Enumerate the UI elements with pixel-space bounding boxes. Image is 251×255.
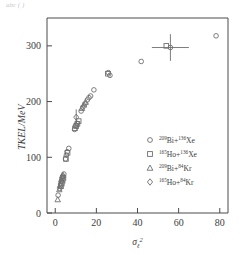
data-point [55,197,60,202]
legend-marker-diamond [147,179,152,185]
legend: 209Bi+136Xe165Ho+136Xe209Bi+84Kr165Ho+84… [147,135,197,187]
legend-label-element-b: Kr [183,164,191,173]
plot-frame [47,18,228,213]
legend-marker-triangle [147,165,153,170]
legend-label-element-b: Kr [186,178,194,187]
x-tick-label: 20 [91,217,101,228]
scatter-plot-figure: abc ( ) TKEL/MeV 0100200300020406080σℓ22… [0,0,251,255]
data-point [214,34,219,39]
x-axis-ticks: 020406080 [53,208,225,228]
frame-path [47,18,228,213]
y-tick-label: 0 [36,208,41,219]
x-axis-label: σℓ2 [132,236,143,249]
legend-label-element-b: Xe [188,150,197,159]
legend-label: 165Ho+136Xe [159,149,198,159]
legend-label: 165Ho+84Kr [159,177,194,187]
legend-label-element-a: Bi+ [167,164,178,173]
x-tick-label: 60 [174,217,184,228]
data-point [92,88,97,93]
x-axis-label-superscript: 2 [139,236,143,243]
plot-canvas: 0100200300020406080σℓ2209Bi+136Xe165Ho+1… [0,0,251,255]
y-tick-label: 200 [26,96,41,107]
x-tick-label: 80 [215,217,225,228]
legend-marker-circle [148,138,153,143]
x-tick-label: 0 [53,217,58,228]
x-axis-label-subscript: ℓ [137,243,140,249]
y-tick-label: 100 [26,152,41,163]
legend-label-element-b: Xe [186,136,195,145]
legend-label: 209Bi+136Xe [159,135,196,145]
data-point [139,59,144,64]
legend-label-element-a: Ho+ [167,178,181,187]
legend-marker-square [148,152,153,157]
legend-label-element-a: Ho+ [167,150,181,159]
data-series-0 [56,34,219,198]
legend-label: 209Bi+84Kr [159,163,192,173]
error-bars [76,34,189,125]
x-tick-label: 40 [133,217,143,228]
y-tick-label: 300 [26,40,41,51]
legend-label-element-a: Bi+ [167,136,178,145]
y-axis-ticks: 0100200300 [26,40,52,218]
